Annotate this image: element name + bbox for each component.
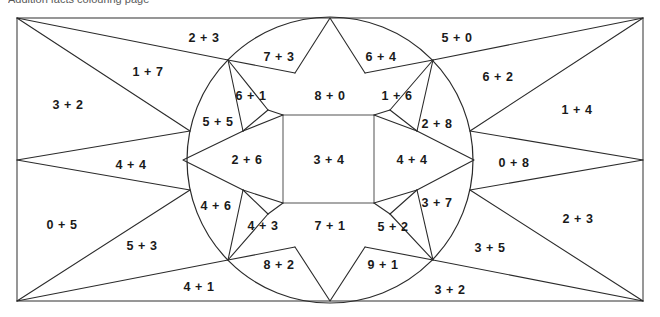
outer-right-dividers <box>433 18 643 301</box>
region-label-star-top-right-point: 6 + 4 <box>365 51 396 64</box>
region-label-outer-bottom-right-arc: 3 + 2 <box>434 284 465 297</box>
region-label-inner-upper-right-small: 1 + 6 <box>381 90 412 103</box>
region-label-star-bottom-right-point: 9 + 1 <box>367 259 398 272</box>
region-label-star-left-point: 2 + 6 <box>231 154 262 167</box>
coloring-worksheet-figure: Addition facts colouring page <box>0 0 660 317</box>
region-label-center-square: 3 + 4 <box>313 154 344 167</box>
region-label-outer-top-left-arc: 2 + 3 <box>188 32 219 45</box>
region-label-star-right-point: 4 + 4 <box>396 154 427 167</box>
region-label-star-top-point: 8 + 0 <box>314 90 345 103</box>
region-label-outer-bottom-right-inner: 3 + 5 <box>474 242 505 255</box>
region-label-inner-lower-left-small: 4 + 3 <box>247 220 278 233</box>
region-label-outer-top-right-arc: 5 + 0 <box>441 32 472 45</box>
region-label-outer-right-upper: 1 + 4 <box>561 104 592 117</box>
region-label-outer-left-lower-wedge: 4 + 4 <box>115 159 146 172</box>
region-label-outer-bottom-left-inner: 5 + 3 <box>126 240 157 253</box>
region-label-outer-left-middle: 3 + 2 <box>52 99 83 112</box>
region-label-inner-lower-right-small: 5 + 2 <box>377 221 408 234</box>
region-label-star-bottom-point: 7 + 1 <box>314 220 345 233</box>
region-label-outer-top-left-inner: 1 + 7 <box>132 66 163 79</box>
region-label-outer-right-wedge: 0 + 8 <box>498 157 529 170</box>
region-label-inner-left-upper: 5 + 5 <box>202 116 233 129</box>
region-label-outer-bottom-left-arc: 4 + 1 <box>183 281 214 294</box>
region-label-outer-right-lower: 2 + 3 <box>562 213 593 226</box>
region-label-inner-right-lower: 3 + 7 <box>421 197 452 210</box>
region-label-inner-right-upper: 2 + 8 <box>421 118 452 131</box>
region-label-outer-bottom-left: 0 + 5 <box>46 219 77 232</box>
region-label-star-top-left-point: 7 + 3 <box>263 51 294 64</box>
region-label-star-bottom-left-point: 8 + 2 <box>263 259 294 272</box>
region-label-inner-upper-left-small: 6 + 1 <box>235 90 266 103</box>
region-label-outer-top-right-inner: 6 + 2 <box>482 71 513 84</box>
region-label-inner-left-lower: 4 + 6 <box>200 200 231 213</box>
